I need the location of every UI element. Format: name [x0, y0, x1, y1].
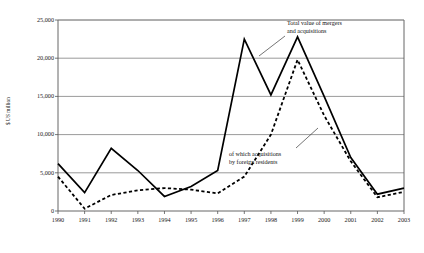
- annotation-foreign-acquisitions: of which acquisitions by foreign residen…: [229, 150, 349, 166]
- axis-lines: [58, 20, 404, 211]
- annotation-total-value: Total value of mergers and acquisitions: [287, 19, 407, 35]
- plot-area: [0, 0, 424, 253]
- chart-container: $ US million 05,00010,00015,00020,00025,…: [0, 0, 424, 253]
- x-axis-ticks: [55, 20, 404, 214]
- annotation-leader-lines: [259, 36, 318, 148]
- data-series: [58, 37, 404, 209]
